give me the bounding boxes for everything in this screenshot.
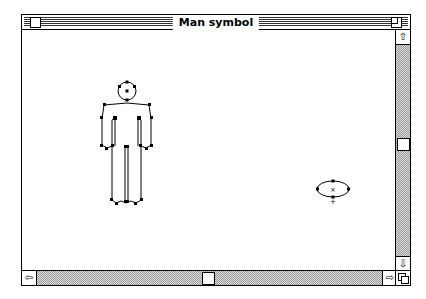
drawing-svg: × + xyxy=(22,30,396,270)
horizontal-scrollbar[interactable]: ⇦ ⇨ xyxy=(22,270,397,285)
selected-ellipse: × + xyxy=(316,180,350,207)
grow-icon-overlap xyxy=(401,276,409,284)
scroll-up-arrow-icon[interactable]: ⇧ xyxy=(396,30,410,45)
size-box[interactable] xyxy=(395,270,410,285)
ellipse-center-mark: × xyxy=(330,186,336,194)
scroll-down-arrow-icon[interactable]: ⇩ xyxy=(396,256,410,271)
close-box[interactable] xyxy=(30,17,41,28)
selection-handles xyxy=(100,81,153,206)
scroll-left-arrow-icon[interactable]: ⇦ xyxy=(22,271,37,285)
document-window: Man symbol xyxy=(21,14,411,286)
horizontal-scroll-thumb[interactable] xyxy=(202,272,215,285)
crosshair-cursor-icon: + xyxy=(330,198,336,206)
title-bar[interactable]: Man symbol xyxy=(22,15,410,30)
window-title: Man symbol xyxy=(173,15,259,30)
drawing-canvas[interactable]: × + xyxy=(22,30,396,270)
zoom-box[interactable] xyxy=(391,17,402,28)
vertical-scroll-thumb[interactable] xyxy=(397,138,410,151)
vertical-scrollbar[interactable]: ⇧ ⇩ xyxy=(395,30,410,271)
